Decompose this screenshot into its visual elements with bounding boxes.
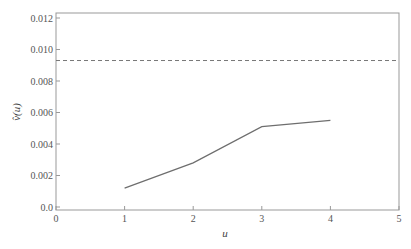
x-tick-label: 2 (191, 213, 196, 224)
y-axis-label: v̂(u) (10, 103, 23, 121)
x-tick-label: 5 (397, 213, 402, 224)
y-tick-label: 0.012 (31, 13, 54, 24)
y-tick-label: 0.0 (41, 202, 54, 213)
plot-frame (56, 13, 399, 210)
y-tick-label: 0.010 (31, 44, 54, 55)
x-tick-label: 4 (328, 213, 333, 224)
x-tick-label: 1 (122, 213, 127, 224)
line-chart: 0.00.0020.0040.0060.0080.0100.012 012345… (0, 0, 411, 249)
y-tick-label: 0.006 (31, 107, 54, 118)
x-tick-label: 0 (54, 213, 59, 224)
y-tick-label: 0.008 (31, 76, 54, 87)
x-tick-label: 3 (259, 213, 264, 224)
x-axis-ticks: 012345 (54, 206, 402, 224)
x-axis-label: u (222, 227, 228, 239)
y-tick-label: 0.002 (31, 170, 54, 181)
y-tick-label: 0.004 (31, 139, 54, 150)
data-series-line (125, 120, 331, 188)
